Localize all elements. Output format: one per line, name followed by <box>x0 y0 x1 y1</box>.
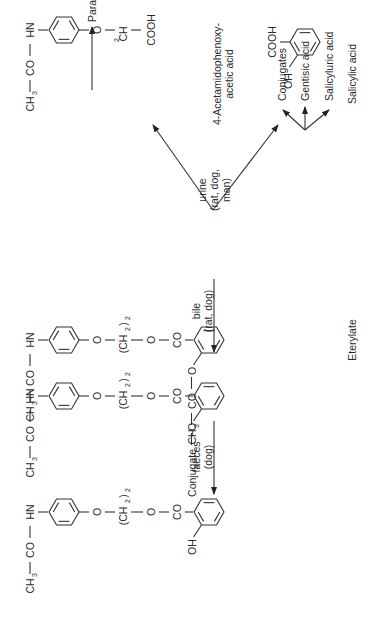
acid-label-2: acetic acid <box>223 49 235 99</box>
ester-oxygen: O <box>145 392 157 400</box>
subscript: 2 <box>124 372 131 376</box>
salicylic-acid-structure: OHCOOH <box>266 26 320 89</box>
arrow-conjugates <box>283 110 305 130</box>
gentisic-acid-label: Gentisic acid <box>299 41 311 101</box>
metabolism-diagram: HNCOCH3O(CH2)2OCOOCOCH3 HNCOCH3O(CH2)2OC… <box>0 0 389 622</box>
bond <box>194 353 202 365</box>
arrow-salicyluric <box>305 110 329 130</box>
eterylate-label: Eterylate <box>346 319 358 361</box>
subscript: 2 <box>124 488 131 492</box>
acid-label-1: 4-Acetamidophenoxy- <box>211 22 223 125</box>
ether-oxygen: O <box>91 392 103 400</box>
hydroxyl-label: OH <box>186 539 198 555</box>
conjugates-label: Conjugates <box>276 48 288 101</box>
ch2-label: (CH <box>117 507 129 526</box>
co-label: CO <box>24 370 36 386</box>
bile-route: bile (rat, dog) <box>190 279 214 352</box>
ester-oxygen: O <box>145 508 157 516</box>
salicylic-acid-label: Salicylic acid <box>346 44 358 104</box>
hn-label: HN <box>24 332 36 347</box>
diagram-stage: HNCOCH3O(CH2)2OCOOCOCH3 HNCOCH3O(CH2)2OC… <box>0 0 389 622</box>
paren: ) <box>117 378 129 382</box>
urine-label-3: man) <box>220 178 232 202</box>
ester-oxygen: O <box>145 336 157 344</box>
ch2-label: (CH <box>117 391 129 410</box>
bond <box>194 409 202 421</box>
cooh-label: COOH <box>145 14 157 46</box>
faeces-label-1: faeces <box>190 442 202 473</box>
ch3-label: CH <box>24 462 36 477</box>
faeces-product-structure: HNCOCH3O(CH2)2OCOOH <box>24 488 224 594</box>
co-label: CO <box>24 542 36 558</box>
carbonyl-label: CO <box>171 388 183 404</box>
subscript: 2 <box>124 316 131 320</box>
phenol-oxygen: O <box>186 367 198 375</box>
ether-oxygen: O <box>91 508 103 516</box>
paren: ) <box>117 494 129 498</box>
bile-label-1: bile <box>190 303 202 320</box>
subscript: 2 <box>124 383 131 387</box>
co-label: CO <box>24 60 36 76</box>
carbonyl-label: CO <box>171 332 183 348</box>
subscript: 3 <box>31 457 38 461</box>
hn-label: HN <box>24 388 36 403</box>
subscript: 2 <box>113 38 120 42</box>
ch2-label: (CH <box>117 335 129 354</box>
urine-label-2: (rat, dog, <box>208 169 220 211</box>
salicylic-metabolites: Conjugates Gentisic acid Salicyluric aci… <box>276 31 335 130</box>
hn-label: HN <box>24 22 36 37</box>
subscript: 3 <box>31 573 38 577</box>
paren: ) <box>117 322 129 326</box>
acetamidophenoxyacetic-acid-structure: HNCOCH3OCH2COOH <box>24 14 157 111</box>
ch3-label: CH <box>24 578 36 593</box>
ch3-label: CH <box>24 96 36 111</box>
paracetamol-label: Paracetamol <box>86 0 98 22</box>
carbonyl-label: CO <box>171 504 183 520</box>
faeces-label-2: (dog) <box>202 445 214 470</box>
subscript: 2 <box>124 499 131 503</box>
urine-label-1: urine <box>196 178 208 202</box>
urine-route: urine (rat, dog, man) <box>153 125 278 211</box>
bond <box>194 525 202 537</box>
ether-oxygen: O <box>91 336 103 344</box>
hn-label: HN <box>24 504 36 519</box>
salicyluric-acid-label: Salicyluric acid <box>323 31 335 101</box>
bile-label-2: (rat, dog) <box>202 290 214 333</box>
subscript: 2 <box>124 327 131 331</box>
ether-oxygen: O <box>91 26 103 34</box>
phenol-oxygen: O <box>186 423 198 431</box>
co-label: CO <box>24 426 36 442</box>
subscript: 3 <box>31 91 38 95</box>
bond <box>290 55 298 67</box>
